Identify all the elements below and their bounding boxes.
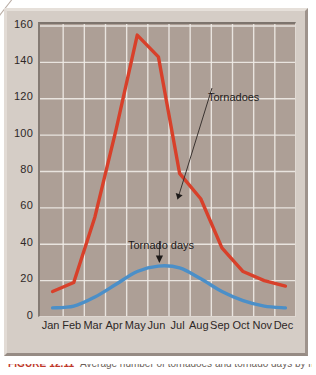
caption-text: Average number of tornadoes and tornado … bbox=[80, 364, 312, 369]
figure-board: 020406080100120140160 JanFebMarAprMayJun… bbox=[4, 8, 308, 356]
figure-root: 020406080100120140160 JanFebMarAprMayJun… bbox=[0, 0, 316, 375]
y-tick-160: 160 bbox=[4, 19, 33, 30]
y-tick-60: 60 bbox=[4, 200, 33, 211]
y-tick-120: 120 bbox=[4, 91, 33, 102]
y-axis-tick-labels: 020406080100120140160 bbox=[4, 8, 38, 331]
annotation-arrows bbox=[156, 88, 212, 263]
chart-svg bbox=[40, 24, 295, 316]
y-tick-140: 140 bbox=[4, 55, 33, 66]
y-tick-80: 80 bbox=[4, 164, 33, 175]
y-tick-20: 20 bbox=[4, 273, 33, 284]
plot-area bbox=[40, 24, 295, 316]
x-axis-tick-labels: JanFebMarAprMayJunJulAugSepOctNovDec bbox=[38, 320, 296, 338]
figure-caption: FIGURE 12.11 Average number of tornadoes… bbox=[4, 364, 312, 375]
y-tick-100: 100 bbox=[4, 128, 33, 139]
annotation-tornado-days-label: Tornado days bbox=[128, 240, 194, 251]
y-tick-40: 40 bbox=[4, 237, 33, 248]
annotation-tornadoes-label: Tornadoes bbox=[208, 92, 259, 103]
caption-prefix: FIGURE 12.11 bbox=[8, 364, 74, 369]
y-tick-0: 0 bbox=[4, 310, 33, 321]
x-tick-dec: Dec bbox=[268, 320, 298, 331]
chart-panel bbox=[38, 22, 296, 317]
